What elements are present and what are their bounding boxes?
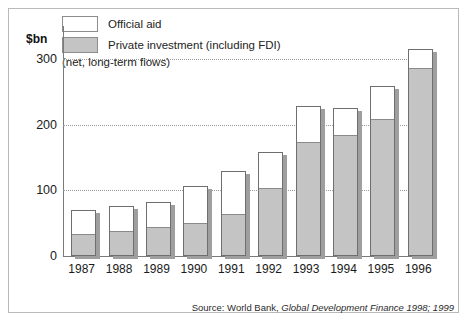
bar-private-investment [184, 223, 207, 255]
bar-official-aid [146, 202, 171, 256]
bar-private-investment [334, 135, 357, 255]
bar-official-aid [221, 171, 246, 256]
source-citation: Source: World Bank, Global Development F… [192, 302, 454, 313]
x-tick-label-1993: 1993 [287, 262, 324, 276]
x-tick-label-1996: 1996 [400, 262, 437, 276]
y-tick-label-200: 200 [23, 118, 57, 132]
bar-official-aid [408, 49, 433, 256]
x-tick-label-1995: 1995 [362, 262, 399, 276]
bar-official-aid [370, 86, 395, 256]
y-tick-label-100: 100 [23, 183, 57, 197]
bar-private-investment [110, 231, 133, 255]
bar-private-investment [371, 119, 394, 255]
bar-group [370, 86, 395, 256]
bar-group [296, 106, 321, 256]
source-prefix: Source: World Bank, [192, 302, 282, 313]
bar-private-investment [297, 142, 320, 255]
bar-official-aid [71, 210, 96, 256]
chart-figure: $bn Official aid Private investment (inc… [0, 0, 468, 323]
bar-group [333, 108, 358, 257]
x-tick-label-1992: 1992 [250, 262, 287, 276]
bar-official-aid [296, 106, 321, 256]
x-axis-labels: 1987198819891990199119921993199419951996 [63, 262, 437, 280]
y-axis-labels: 0100200300 [19, 26, 57, 256]
bar-private-investment [409, 68, 432, 255]
bar-private-investment [72, 234, 95, 255]
x-tick-label-1994: 1994 [325, 262, 362, 276]
bar-private-investment [147, 227, 170, 255]
bar-official-aid [333, 108, 358, 257]
bar-group [146, 202, 171, 256]
bar-group [258, 152, 283, 256]
bar-private-investment [222, 214, 245, 255]
bar-group [71, 210, 96, 256]
bar-official-aid [258, 152, 283, 256]
source-title: Global Development Finance 1998; 1999 [281, 302, 454, 313]
bar-group [221, 171, 246, 256]
bar-private-investment [259, 188, 282, 255]
y-tick-label-0: 0 [23, 249, 57, 263]
plot-area [63, 26, 437, 256]
bar-series-container [63, 26, 437, 256]
x-tick-label-1989: 1989 [138, 262, 175, 276]
x-tick-label-1987: 1987 [63, 262, 100, 276]
x-tick-label-1990: 1990 [175, 262, 212, 276]
bar-group [183, 186, 208, 256]
y-tick-label-300: 300 [23, 52, 57, 66]
bar-group [109, 206, 134, 256]
bar-official-aid [109, 206, 134, 256]
bar-official-aid [183, 186, 208, 256]
x-tick-label-1988: 1988 [100, 262, 137, 276]
x-tick-label-1991: 1991 [213, 262, 250, 276]
bar-group [408, 49, 433, 256]
